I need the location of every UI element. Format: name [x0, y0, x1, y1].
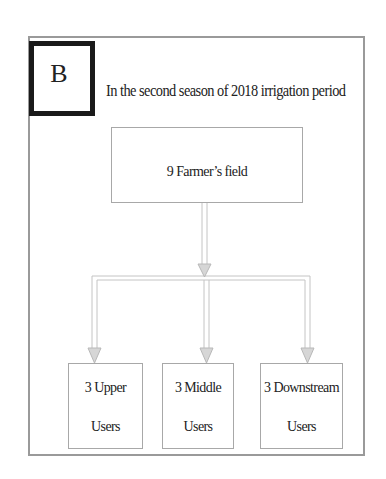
arrowhead-upper [88, 348, 101, 363]
node-upper-users-line2: Users [69, 419, 142, 435]
node-downstream-users: 3 Downstream Users [260, 363, 343, 449]
arrowhead-middle [200, 348, 213, 363]
node-downstream-users-line1: 3 Downstream [261, 380, 342, 396]
node-middle-users: 3 Middle Users [162, 363, 234, 449]
node-upper-users-line1: 3 Upper [69, 380, 142, 396]
node-upper-users: 3 Upper Users [68, 363, 143, 449]
node-downstream-users-line2: Users [261, 419, 342, 435]
node-middle-users-line2: Users [163, 419, 233, 435]
arrowhead-trunk [198, 264, 211, 277]
arrowhead-downstream [301, 348, 314, 363]
node-farmers-field: 9 Farmer’s field [111, 127, 303, 203]
node-farmers-field-label: 9 Farmer’s field [112, 164, 302, 180]
node-middle-users-line1: 3 Middle [163, 380, 233, 396]
